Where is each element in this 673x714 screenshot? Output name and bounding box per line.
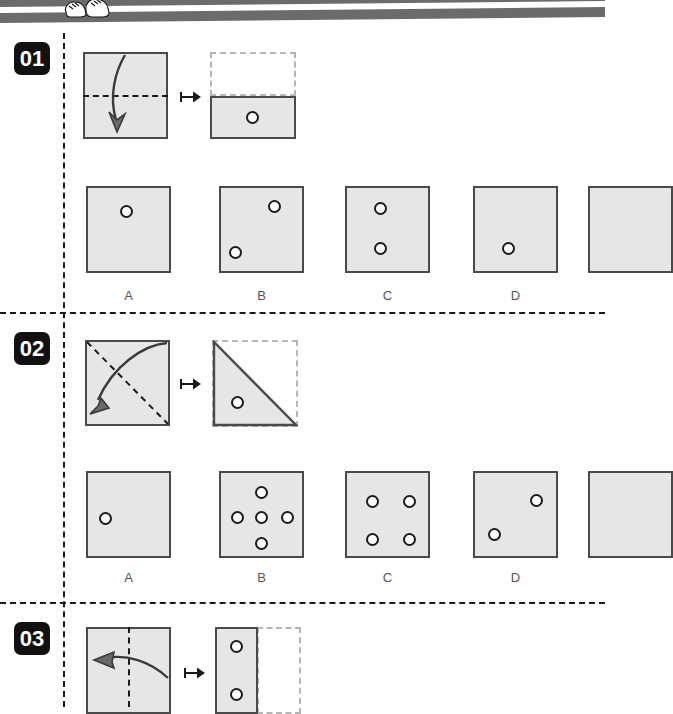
q01-option-a[interactable]: [86, 186, 171, 273]
q01-option-e-partial[interactable]: [588, 186, 673, 273]
q02-option-c-hole-3: [366, 533, 379, 546]
question-divider-1: [0, 312, 605, 314]
q02-maps-to-arrow-icon: [180, 376, 202, 392]
q02-option-c[interactable]: [345, 471, 430, 558]
q02-option-b-hole-right: [281, 511, 294, 524]
q02-option-c-hole-1: [366, 495, 379, 508]
q01-option-d-hole-1: [502, 242, 515, 255]
q02-option-b-hole-left: [231, 511, 244, 524]
header-band: [0, 0, 605, 30]
q01-result-hole: [246, 111, 259, 124]
q02-option-a-label: A: [86, 570, 171, 585]
q02-option-b-hole-center: [255, 511, 268, 524]
q03-result-hole-2: [230, 688, 243, 701]
q03-maps-to-arrow-icon: [184, 665, 206, 681]
q02-result-triangle: [212, 340, 298, 427]
question-number-badge-03: 03: [14, 622, 50, 655]
q01-option-d-label: D: [473, 288, 558, 303]
q01-option-a-label: A: [86, 288, 171, 303]
shoes-mascot-icon: [60, 0, 116, 22]
q02-option-c-hole-4: [403, 533, 416, 546]
q02-option-d[interactable]: [473, 471, 558, 558]
q02-result-hole: [231, 396, 244, 409]
q02-fold-arrow-icon: [85, 336, 175, 428]
q02-option-d-hole-2: [488, 528, 501, 541]
q02-option-d-hole-1: [530, 494, 543, 507]
q02-option-e-partial[interactable]: [588, 471, 673, 558]
q01-option-c-label: C: [345, 288, 430, 303]
q02-option-b-hole-bottom: [255, 537, 268, 550]
q01-option-c[interactable]: [345, 186, 430, 273]
q02-option-a-hole-1: [99, 512, 112, 525]
question-divider-2: [0, 602, 605, 604]
q03-result-hole-1: [230, 640, 243, 653]
q01-result-ghost-half: [210, 52, 296, 96]
q01-option-b-hole-2: [229, 246, 242, 259]
q03-fold-arrow-icon: [88, 640, 174, 686]
question-number-badge-02: 02: [14, 332, 50, 365]
q01-option-a-hole-1: [120, 205, 133, 218]
q01-option-c-hole-2: [374, 242, 387, 255]
q02-option-d-label: D: [473, 570, 558, 585]
q03-result-ghost-half: [257, 627, 301, 714]
question-number-badge-01: 01: [14, 42, 50, 75]
section-rail-vertical: [63, 33, 65, 707]
q01-option-c-hole-1: [374, 202, 387, 215]
q01-option-d[interactable]: [473, 186, 558, 273]
q01-maps-to-arrow-icon: [180, 89, 202, 105]
q02-option-c-hole-2: [403, 495, 416, 508]
q01-option-b-hole-1: [268, 200, 281, 213]
q02-option-c-label: C: [345, 570, 430, 585]
q01-option-b-label: B: [219, 288, 304, 303]
q01-option-b[interactable]: [219, 186, 304, 273]
q02-option-b-label: B: [219, 570, 304, 585]
q01-fold-arrow-icon: [95, 52, 155, 140]
q02-option-b-hole-top: [255, 486, 268, 499]
